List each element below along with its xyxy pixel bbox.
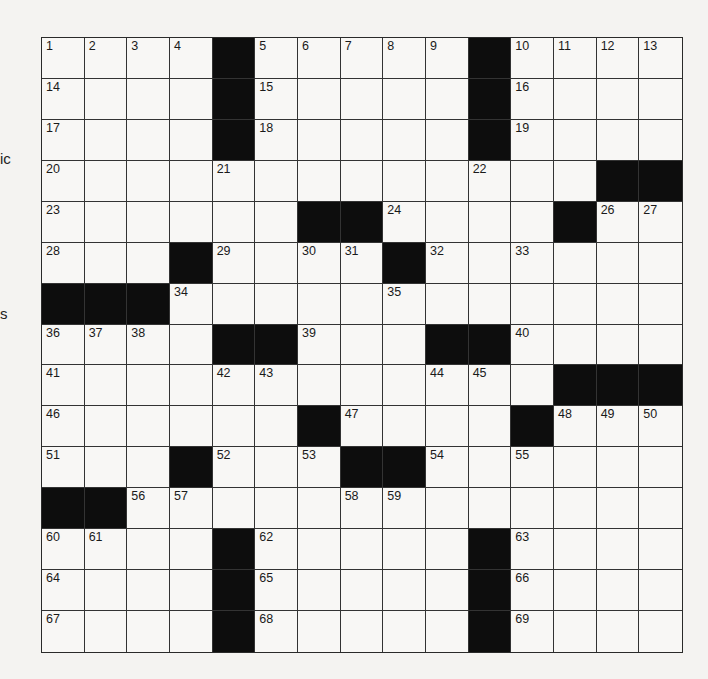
crossword-cell[interactable] xyxy=(554,529,597,570)
crossword-cell[interactable] xyxy=(170,365,213,406)
crossword-cell[interactable] xyxy=(639,488,682,529)
crossword-cell[interactable] xyxy=(511,284,554,325)
crossword-cell[interactable] xyxy=(341,611,384,652)
crossword-cell[interactable] xyxy=(383,120,426,161)
crossword-cell[interactable] xyxy=(85,79,128,120)
crossword-cell[interactable] xyxy=(597,325,640,366)
crossword-cell[interactable]: 10 xyxy=(511,38,554,79)
crossword-cell[interactable] xyxy=(170,529,213,570)
crossword-cell[interactable] xyxy=(469,447,512,488)
crossword-cell[interactable] xyxy=(170,161,213,202)
crossword-cell[interactable]: 24 xyxy=(383,202,426,243)
crossword-cell[interactable] xyxy=(85,447,128,488)
crossword-cell[interactable]: 7 xyxy=(341,38,384,79)
crossword-cell[interactable] xyxy=(597,570,640,611)
crossword-cell[interactable] xyxy=(213,284,256,325)
crossword-cell[interactable] xyxy=(383,406,426,447)
crossword-cell[interactable] xyxy=(298,529,341,570)
crossword-cell[interactable] xyxy=(383,79,426,120)
crossword-cell[interactable] xyxy=(341,570,384,611)
crossword-cell[interactable]: 68 xyxy=(255,611,298,652)
crossword-cell[interactable]: 6 xyxy=(298,38,341,79)
crossword-cell[interactable]: 42 xyxy=(213,365,256,406)
crossword-cell[interactable] xyxy=(170,79,213,120)
crossword-cell[interactable]: 57 xyxy=(170,488,213,529)
crossword-cell[interactable] xyxy=(426,611,469,652)
crossword-cell[interactable]: 27 xyxy=(639,202,682,243)
crossword-cell[interactable] xyxy=(426,120,469,161)
crossword-cell[interactable] xyxy=(127,79,170,120)
crossword-cell[interactable]: 28 xyxy=(42,243,85,284)
crossword-cell[interactable]: 34 xyxy=(170,284,213,325)
crossword-cell[interactable] xyxy=(85,202,128,243)
crossword-cell[interactable] xyxy=(298,488,341,529)
crossword-cell[interactable] xyxy=(85,243,128,284)
crossword-cell[interactable] xyxy=(469,202,512,243)
crossword-cell[interactable] xyxy=(127,161,170,202)
crossword-cell[interactable]: 17 xyxy=(42,120,85,161)
crossword-cell[interactable] xyxy=(426,79,469,120)
crossword-cell[interactable] xyxy=(511,365,554,406)
crossword-cell[interactable] xyxy=(639,570,682,611)
crossword-cell[interactable] xyxy=(597,79,640,120)
crossword-cell[interactable] xyxy=(554,325,597,366)
crossword-cell[interactable]: 8 xyxy=(383,38,426,79)
crossword-cell[interactable] xyxy=(341,284,384,325)
crossword-cell[interactable] xyxy=(511,161,554,202)
crossword-cell[interactable] xyxy=(213,202,256,243)
crossword-cell[interactable]: 23 xyxy=(42,202,85,243)
crossword-cell[interactable]: 56 xyxy=(127,488,170,529)
crossword-cell[interactable]: 12 xyxy=(597,38,640,79)
crossword-cell[interactable] xyxy=(383,570,426,611)
crossword-cell[interactable] xyxy=(639,243,682,284)
crossword-cell[interactable] xyxy=(469,243,512,284)
crossword-cell[interactable]: 1 xyxy=(42,38,85,79)
crossword-cell[interactable]: 62 xyxy=(255,529,298,570)
crossword-cell[interactable]: 14 xyxy=(42,79,85,120)
crossword-cell[interactable] xyxy=(170,120,213,161)
crossword-cell[interactable] xyxy=(383,161,426,202)
crossword-cell[interactable] xyxy=(597,243,640,284)
crossword-cell[interactable]: 60 xyxy=(42,529,85,570)
crossword-cell[interactable] xyxy=(554,243,597,284)
crossword-cell[interactable] xyxy=(298,161,341,202)
crossword-cell[interactable]: 44 xyxy=(426,365,469,406)
crossword-cell[interactable]: 67 xyxy=(42,611,85,652)
crossword-cell[interactable] xyxy=(341,161,384,202)
crossword-cell[interactable] xyxy=(469,406,512,447)
crossword-cell[interactable]: 2 xyxy=(85,38,128,79)
crossword-cell[interactable] xyxy=(127,120,170,161)
crossword-cell[interactable] xyxy=(213,406,256,447)
crossword-cell[interactable]: 58 xyxy=(341,488,384,529)
crossword-cell[interactable] xyxy=(298,570,341,611)
crossword-cell[interactable] xyxy=(639,529,682,570)
crossword-cell[interactable] xyxy=(554,284,597,325)
crossword-cell[interactable] xyxy=(127,570,170,611)
crossword-cell[interactable] xyxy=(85,120,128,161)
crossword-cell[interactable] xyxy=(341,529,384,570)
crossword-cell[interactable]: 40 xyxy=(511,325,554,366)
crossword-cell[interactable]: 65 xyxy=(255,570,298,611)
crossword-cell[interactable]: 49 xyxy=(597,406,640,447)
crossword-cell[interactable]: 69 xyxy=(511,611,554,652)
crossword-cell[interactable]: 54 xyxy=(426,447,469,488)
crossword-cell[interactable] xyxy=(127,447,170,488)
crossword-cell[interactable] xyxy=(298,120,341,161)
crossword-cell[interactable] xyxy=(554,611,597,652)
crossword-cell[interactable] xyxy=(554,120,597,161)
crossword-cell[interactable] xyxy=(383,365,426,406)
crossword-cell[interactable]: 48 xyxy=(554,406,597,447)
crossword-cell[interactable] xyxy=(127,611,170,652)
crossword-cell[interactable]: 41 xyxy=(42,365,85,406)
crossword-cell[interactable]: 4 xyxy=(170,38,213,79)
crossword-cell[interactable] xyxy=(639,325,682,366)
crossword-cell[interactable]: 38 xyxy=(127,325,170,366)
crossword-cell[interactable]: 46 xyxy=(42,406,85,447)
crossword-cell[interactable] xyxy=(597,120,640,161)
crossword-cell[interactable]: 18 xyxy=(255,120,298,161)
crossword-cell[interactable] xyxy=(85,406,128,447)
crossword-cell[interactable]: 30 xyxy=(298,243,341,284)
crossword-cell[interactable] xyxy=(597,447,640,488)
crossword-cell[interactable]: 13 xyxy=(639,38,682,79)
crossword-cell[interactable] xyxy=(341,120,384,161)
